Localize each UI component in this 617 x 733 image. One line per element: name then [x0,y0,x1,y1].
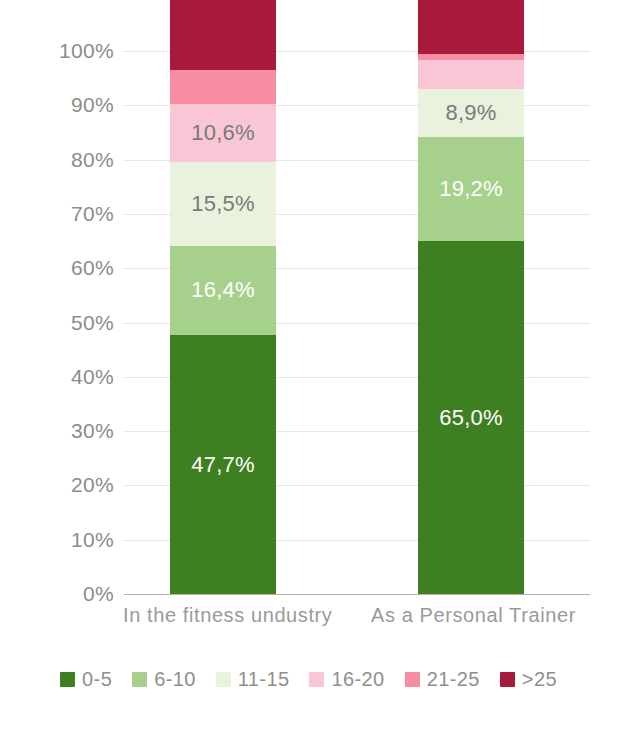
legend-swatch-icon [500,672,515,687]
legend-item-21-25[interactable]: 21-25 [405,668,480,691]
x-axis-category-labels: In the fitness undustryAs a Personal Tra… [124,604,590,644]
y-tick-label: 10% [28,528,114,552]
legend-item-0-5[interactable]: 0-5 [60,668,112,691]
bar-segment-21-25 [418,54,524,61]
chart-legend: 0-56-1011-1516-2021-25>25 [0,668,617,691]
legend-swatch-icon [216,672,231,687]
bar-segment-16-20: 10,6% [170,104,276,162]
legend-item-gt25[interactable]: >25 [500,668,557,691]
bar-segment-value-label: 47,7% [191,454,254,476]
y-tick-label: 0% [28,582,114,606]
legend-swatch-icon [132,672,147,687]
y-tick-label: 60% [28,256,114,280]
bar-segment-value-label: 19,2% [439,178,502,200]
bar-segment-6-10: 19,2% [418,137,524,241]
bar-segment-11-15: 8,9% [418,89,524,137]
x-axis-category-label: As a Personal Trainer [371,604,571,627]
y-tick-label: 80% [28,148,114,172]
legend-swatch-icon [309,672,324,687]
y-axis-tick-labels: 100%90%80%70%60%50%40%30%20%10%0% [14,51,114,594]
bar-segment->25 [170,0,276,70]
bar-segment-11-15: 15,5% [170,162,276,246]
legend-label: 6-10 [154,668,196,691]
bar-segment-0-5: 47,7% [170,335,276,594]
bar-segment-21-25 [170,70,276,104]
bar-segment-value-label: 15,5% [191,193,254,215]
y-tick-label: 20% [28,473,114,497]
plot-area: 47,7%16,4%15,5%10,6%65,0%19,2%8,9% [124,51,590,594]
legend-label: 21-25 [427,668,480,691]
y-tick-label: 40% [28,365,114,389]
legend-item-6-10[interactable]: 6-10 [132,668,196,691]
y-tick-label: 70% [28,202,114,226]
legend-item-16-20[interactable]: 16-20 [309,668,384,691]
stacked-bar: 65,0%19,2%8,9% [418,0,524,594]
y-tick-label: 100% [28,39,114,63]
legend-item-11-15[interactable]: 11-15 [216,668,290,691]
legend-label: 0-5 [82,668,112,691]
legend-label: 16-20 [331,668,384,691]
bar-segment-0-5: 65,0% [418,241,524,594]
stacked-bar: 47,7%16,4%15,5%10,6% [170,0,276,594]
bar-segment-value-label: 65,0% [439,407,502,429]
y-tick-label: 90% [28,93,114,117]
y-tick-label: 50% [28,311,114,335]
legend-swatch-icon [60,672,75,687]
x-axis-category-label: In the fitness undustry [123,604,323,627]
legend-label: >25 [522,668,557,691]
bar-segment-value-label: 16,4% [191,279,254,301]
bar-segment-value-label: 10,6% [191,122,254,144]
bar-segment-value-label: 8,9% [446,102,497,124]
bar-segment-6-10: 16,4% [170,246,276,335]
gridline-0 [124,594,590,595]
y-tick-label: 30% [28,419,114,443]
bar-segment->25 [418,0,524,54]
legend-label: 11-15 [238,668,290,691]
bar-segment-16-20 [418,60,524,88]
stacked-bar-chart: 100%90%80%70%60%50%40%30%20%10%0% 47,7%1… [0,0,617,733]
legend-swatch-icon [405,672,420,687]
